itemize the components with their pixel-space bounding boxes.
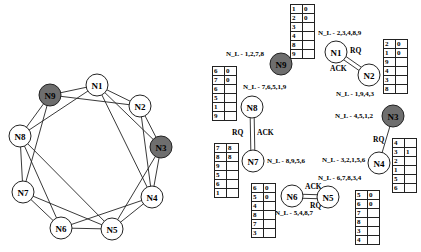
edge-n2-n4: [140, 106, 152, 197]
table-cell: 0: [303, 5, 315, 14]
table-cell: [368, 209, 380, 218]
table-cell: [227, 189, 239, 198]
table-cell: 2: [384, 40, 396, 49]
table-cell: 4: [356, 236, 368, 245]
table-cell: [303, 50, 315, 59]
table-cell: 3: [393, 148, 405, 157]
table-cell: 9: [215, 162, 227, 171]
table-cell: [405, 184, 417, 193]
neighbor-table-n5: 50607834: [355, 190, 380, 245]
table-cell: 5: [252, 193, 264, 202]
table-cell: 1: [393, 166, 405, 175]
table-cell: 0: [225, 67, 237, 76]
neighbor-list-label: N_L - 4,5,1,2: [335, 112, 373, 120]
node-label: N2: [135, 102, 146, 112]
table-cell: 8: [384, 85, 396, 94]
right-node-n3: N3N_L - 4,5,1,2: [335, 105, 404, 127]
link-label-ack: ACK: [330, 64, 347, 73]
table-row: 8: [384, 85, 408, 94]
left-node-n8: N8: [9, 125, 31, 147]
table-row: 3: [252, 229, 276, 238]
table-row: 9: [291, 50, 315, 59]
node-label: N6: [56, 224, 67, 234]
left-node-n5: N5: [101, 218, 123, 240]
table-cell: [264, 211, 276, 220]
table-row: 60: [356, 200, 380, 209]
neighbor-table-n2: 20109438: [383, 39, 408, 94]
node-label: N9: [45, 91, 56, 101]
table-row: 9: [215, 162, 239, 171]
link-label-rq: RQ: [232, 128, 243, 137]
table-row: 5: [393, 175, 417, 184]
node-label: N7: [248, 157, 259, 167]
table-cell: 3: [252, 229, 264, 238]
right-node-n8: N8N_L - 7,6,5,1,9: [241, 83, 287, 118]
node-label: N5: [107, 225, 118, 235]
table-cell: 0: [264, 184, 276, 193]
table-row: 3: [356, 227, 380, 236]
left-node-n3: N3: [150, 136, 172, 158]
node-label: N4: [374, 159, 385, 169]
left-node-n9: N9: [39, 84, 61, 106]
table-cell: 8: [291, 41, 303, 50]
table-cell: 4: [384, 67, 396, 76]
table-row: 10: [291, 5, 315, 14]
table-row: 50: [252, 193, 276, 202]
table-cell: 8: [252, 211, 264, 220]
neighbor-list-label: N_L - 5,4,8,7: [275, 209, 313, 217]
table-row: 60: [252, 184, 276, 193]
right-node-n7: N7N_L - 8,9,5,6: [242, 150, 305, 172]
left-graph-nodes: N1N2N3N4N5N6N7N8N9: [9, 74, 172, 240]
right-node-n4: N4N_L - 3,2,1,5,6: [322, 152, 390, 174]
table-cell: 1: [405, 148, 417, 157]
table-row: 6: [215, 180, 239, 189]
node-label: N4: [147, 193, 158, 203]
table-row: 1: [215, 189, 239, 198]
table-cell: [396, 76, 408, 85]
node-label: N6: [287, 192, 298, 202]
node-label: N7: [18, 188, 29, 198]
table-row: 1: [393, 166, 417, 175]
table-cell: [303, 23, 315, 32]
table-cell: [405, 166, 417, 175]
table-row: 60: [213, 67, 237, 76]
table-cell: [303, 32, 315, 41]
neighbor-table-n7: 78889561: [214, 143, 239, 198]
table-row: 6: [393, 184, 417, 193]
table-cell: 1: [384, 49, 396, 58]
neighbor-list-label: N_L - 3,2,1,5,6: [322, 156, 366, 164]
node-label: N9: [276, 60, 287, 70]
table-row: 6: [213, 85, 237, 94]
table-cell: 5: [213, 94, 225, 103]
table-cell: 5: [215, 171, 227, 180]
table-cell: 8: [227, 144, 239, 153]
table-row: 5: [215, 171, 239, 180]
left-node-n1: N1: [86, 74, 108, 96]
table-cell: 5: [356, 191, 368, 200]
table-cell: [405, 139, 417, 148]
table-cell: [405, 175, 417, 184]
table-cell: [396, 85, 408, 94]
table-row: 8: [356, 218, 380, 227]
table-cell: 0: [303, 14, 315, 23]
left-node-n2: N2: [129, 95, 151, 117]
table-row: 8: [291, 41, 315, 50]
link-label-ack: ACK: [257, 128, 274, 137]
neighbor-list-label: N_L - 1,2,7,8: [226, 50, 264, 58]
table-cell: 4: [252, 202, 264, 211]
neighbor-list-label: N_L - 6,7,8,3,4: [318, 174, 362, 182]
table-row: 70: [213, 76, 237, 85]
table-cell: 7: [252, 220, 264, 229]
table-row: 5: [213, 94, 237, 103]
neighbor-list-label: N_L - 7,6,5,1,9: [243, 83, 287, 91]
node-label: N1: [92, 81, 103, 91]
table-cell: 1: [291, 5, 303, 14]
table-cell: 1: [215, 189, 227, 198]
table-row: 9: [213, 112, 237, 121]
table-cell: [368, 218, 380, 227]
edge-n9-n2: [50, 95, 140, 106]
table-cell: 0: [225, 76, 237, 85]
neighbor-table-n8: 60706519: [212, 66, 237, 121]
table-cell: 6: [213, 67, 225, 76]
edge-n1-n3: [97, 85, 161, 147]
